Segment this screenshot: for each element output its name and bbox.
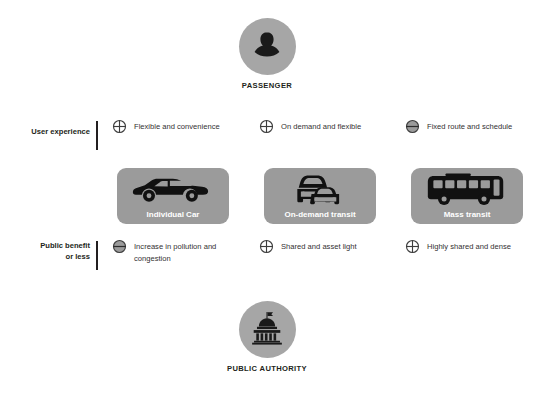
row-label-line-1: Public benefit bbox=[0, 240, 90, 251]
attribute-text: Shared and asset light bbox=[281, 238, 357, 253]
attribute-cell-public-benefit-on-demand-transit: Shared and asset light bbox=[259, 238, 399, 254]
mode-card-on-demand-transit[interactable]: On-demand transit bbox=[264, 168, 376, 224]
two-cars-front-icon bbox=[264, 171, 376, 207]
actor-public-authority: PUBLIC AUTHORITY bbox=[0, 301, 534, 373]
car-side-icon bbox=[117, 171, 229, 207]
mode-card-mass-transit[interactable]: Mass transit bbox=[411, 168, 523, 224]
row-user-experience: User experience Flexible and convenience… bbox=[0, 118, 534, 158]
mode-card-individual-car[interactable]: Individual Car bbox=[117, 168, 229, 224]
attribute-text: Fixed route and schedule bbox=[427, 118, 512, 133]
row-divider bbox=[96, 121, 98, 150]
row-label-line-2: or less bbox=[0, 251, 90, 262]
passenger-icon-circle bbox=[239, 18, 296, 75]
attribute-cell-user-experience-mass-transit: Fixed route and schedule bbox=[405, 118, 534, 134]
attribute-text: On demand and flexible bbox=[281, 118, 361, 133]
attribute-cell-public-benefit-mass-transit: Highly shared and dense bbox=[405, 238, 534, 254]
row-public-benefit: Public benefit or less Increase in pollu… bbox=[0, 238, 534, 278]
mode-card-label: On-demand transit bbox=[264, 210, 376, 219]
actor-passenger: PASSENGER bbox=[0, 18, 534, 90]
row-label-public-benefit: Public benefit or less bbox=[0, 240, 90, 262]
row-label-user-experience: User experience bbox=[0, 126, 90, 137]
government-building-icon bbox=[248, 309, 286, 351]
minus-mark-icon bbox=[112, 239, 127, 254]
attribute-text: Highly shared and dense bbox=[427, 238, 511, 253]
attribute-text: Increase in pollution and congestion bbox=[134, 238, 244, 264]
mode-card-label: Individual Car bbox=[117, 210, 229, 219]
attribute-cell-user-experience-individual-car: Flexible and convenience bbox=[112, 118, 252, 134]
attribute-cell-user-experience-on-demand-transit: On demand and flexible bbox=[259, 118, 399, 134]
public-authority-caption: PUBLIC AUTHORITY bbox=[0, 364, 534, 373]
passenger-caption: PASSENGER bbox=[0, 81, 534, 90]
plus-mark-icon bbox=[112, 119, 127, 134]
public-authority-icon-circle bbox=[239, 301, 296, 358]
row-divider bbox=[96, 241, 98, 270]
mode-card-label: Mass transit bbox=[411, 210, 523, 219]
person-silhouette-icon bbox=[249, 27, 285, 67]
bus-side-icon bbox=[411, 171, 523, 207]
attribute-cell-public-benefit-individual-car: Increase in pollution and congestion bbox=[112, 238, 252, 264]
attribute-text: Flexible and convenience bbox=[134, 118, 220, 133]
minus-mark-icon bbox=[405, 119, 420, 134]
plus-mark-icon bbox=[405, 239, 420, 254]
plus-mark-icon bbox=[259, 119, 274, 134]
plus-mark-icon bbox=[259, 239, 274, 254]
